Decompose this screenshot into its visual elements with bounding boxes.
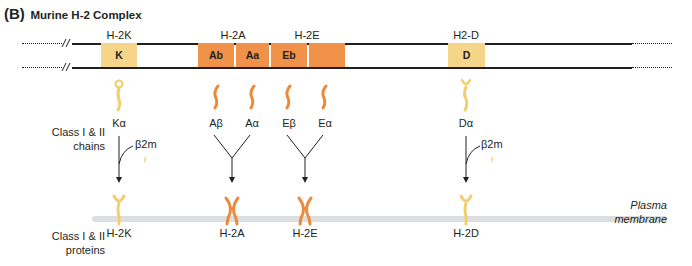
protein-label-h2e: H-2E <box>292 227 317 239</box>
diagram-shapes <box>0 0 692 266</box>
class2-chain-eb-icon <box>287 86 290 108</box>
protein-h2d-icon <box>461 196 471 224</box>
class2-chain-aa-icon <box>251 86 254 108</box>
chain-label-a-beta: Aβ <box>209 117 223 129</box>
chain-label-e-alpha: Eα <box>318 117 332 129</box>
protein-h2a-beta-icon <box>226 198 231 224</box>
class1-chain-k-icon <box>116 81 123 111</box>
protein-label-h2k: H-2K <box>106 227 131 239</box>
chain-label-k-alpha: Kα <box>112 117 126 129</box>
beta2m-label-d: β2m <box>481 138 503 150</box>
beta2m-label-k: β2m <box>135 138 157 150</box>
chain-label-a-alpha: Aα <box>245 117 259 129</box>
class1-chain-d-icon <box>462 80 470 110</box>
protein-label-h2a: H-2A <box>219 227 244 239</box>
class2-chain-ea-icon <box>323 86 326 108</box>
protein-h2a-alpha-icon <box>233 198 238 224</box>
chain-label-e-beta: Eβ <box>282 117 296 129</box>
protein-h2e-beta-icon <box>299 198 304 224</box>
class2-chain-ab-icon <box>215 86 218 108</box>
protein-label-h2d: H-2D <box>453 227 479 239</box>
protein-h2k-icon <box>114 196 124 224</box>
chain-label-d-alpha: Dα <box>459 117 473 129</box>
protein-h2e-alpha-icon <box>306 198 311 224</box>
